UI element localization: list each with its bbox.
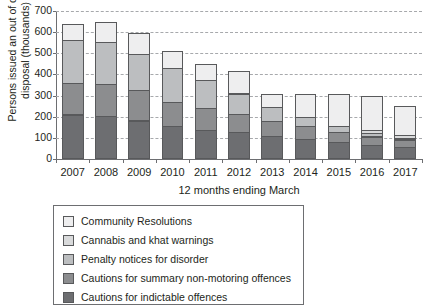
- x-tick-label: 2011: [189, 166, 222, 178]
- x-tick-mark: [189, 159, 190, 163]
- y-tick-label: 500: [8, 47, 52, 58]
- bar-segment: [228, 132, 250, 159]
- bar-segment: [128, 90, 150, 121]
- x-tick-mark: [56, 159, 57, 163]
- bar-segment: [62, 24, 84, 41]
- bar-segment: [328, 142, 350, 159]
- bar-segment: [95, 84, 117, 117]
- y-tick-label: 300: [8, 90, 52, 101]
- bar-segment: [261, 121, 283, 137]
- legend-item[interactable]: Community Resolutions: [63, 214, 192, 228]
- y-tick-label: 200: [8, 111, 52, 122]
- bar-group: [195, 65, 217, 159]
- bar-group: [328, 95, 350, 159]
- x-tick-mark: [322, 159, 323, 163]
- legend-item[interactable]: Cautions for indictable offences: [63, 290, 227, 304]
- x-axis-title: 12 months ending March: [56, 184, 422, 196]
- x-tick-mark: [422, 159, 423, 163]
- bar-group: [261, 95, 283, 159]
- bar-segment: [195, 80, 217, 109]
- bar-group: [62, 25, 84, 159]
- bar-segment: [295, 94, 317, 118]
- bar-group: [162, 51, 184, 159]
- bar-group: [295, 95, 317, 159]
- bar-segment: [95, 116, 117, 159]
- legend-label: Community Resolutions: [81, 216, 192, 227]
- bar-segment: [128, 54, 150, 91]
- bar-segment: [228, 94, 250, 115]
- x-tick-mark: [289, 159, 290, 163]
- bar-segment: [128, 121, 150, 159]
- legend-swatch-icon: [63, 292, 74, 303]
- bar-segment: [394, 147, 416, 159]
- x-tick-label: 2012: [222, 166, 255, 178]
- y-tick-label: 700: [8, 5, 52, 16]
- plot-area: [56, 11, 422, 159]
- x-tick-label: 2014: [289, 166, 322, 178]
- bar-segment: [228, 114, 250, 133]
- bar-segment: [95, 22, 117, 43]
- legend-label: Penalty notices for disorder: [81, 254, 208, 265]
- legend-label: Cautions for summary non-motoring offenc…: [81, 273, 291, 284]
- legend: Community ResolutionsCannabis and khat w…: [53, 205, 304, 305]
- bar-segment: [328, 94, 350, 127]
- x-tick-mark: [89, 159, 90, 163]
- bar-segment: [162, 51, 184, 69]
- bar-group: [394, 107, 416, 159]
- x-tick-label: 2009: [123, 166, 156, 178]
- x-tick-mark: [389, 159, 390, 163]
- bar-segment: [228, 71, 250, 94]
- legend-item[interactable]: Cannabis and khat warnings: [63, 233, 214, 247]
- bar-segment: [128, 33, 150, 55]
- bar-segment: [95, 42, 117, 84]
- bar-segment: [261, 94, 283, 108]
- x-tick-label: 2008: [89, 166, 122, 178]
- legend-swatch-icon: [63, 216, 74, 227]
- bar-segment: [162, 68, 184, 102]
- legend-label: Cautions for indictable offences: [81, 292, 227, 303]
- x-axis-line: [56, 159, 422, 160]
- x-tick-label: 2013: [256, 166, 289, 178]
- bar-segment: [361, 96, 383, 131]
- bar-segment: [295, 126, 317, 140]
- legend-item[interactable]: Cautions for summary non-motoring offenc…: [63, 271, 291, 285]
- bar-series-layer: [56, 11, 422, 159]
- x-tick-mark: [256, 159, 257, 163]
- legend-label: Cannabis and khat warnings: [81, 235, 214, 246]
- y-axis-title: Persons issued an out of court disposal …: [6, 0, 31, 127]
- bar-group: [361, 97, 383, 159]
- y-tick-label: 0: [8, 153, 52, 164]
- bar-segment: [195, 108, 217, 131]
- bar-group: [95, 23, 117, 159]
- y-tick-label: 600: [8, 26, 52, 37]
- x-tick-mark: [355, 159, 356, 163]
- x-tick-mark: [123, 159, 124, 163]
- bar-segment: [261, 136, 283, 159]
- bar-segment: [394, 106, 416, 136]
- bar-segment: [295, 139, 317, 159]
- x-tick-label: 2010: [156, 166, 189, 178]
- x-tick-label: 2007: [56, 166, 89, 178]
- legend-swatch-icon: [63, 235, 74, 246]
- x-tick-label: 2016: [355, 166, 388, 178]
- bar-group: [128, 34, 150, 159]
- y-tick-label: 100: [8, 132, 52, 143]
- bar-segment: [162, 126, 184, 159]
- x-tick-mark: [222, 159, 223, 163]
- bar-group: [228, 72, 250, 159]
- legend-item[interactable]: Penalty notices for disorder: [63, 252, 208, 266]
- x-tick-label: 2017: [389, 166, 422, 178]
- bar-segment: [195, 64, 217, 81]
- bar-segment: [195, 130, 217, 159]
- bar-segment: [62, 83, 84, 116]
- legend-swatch-icon: [63, 273, 74, 284]
- bar-segment: [361, 145, 383, 159]
- legend-swatch-icon: [63, 254, 74, 265]
- x-tick-label: 2015: [322, 166, 355, 178]
- bar-segment: [162, 102, 184, 127]
- y-tick-label: 400: [8, 68, 52, 79]
- stacked-bar-chart: Persons issued an out of court disposal …: [0, 0, 427, 308]
- bar-segment: [62, 40, 84, 84]
- x-tick-mark: [156, 159, 157, 163]
- bar-segment: [261, 107, 283, 122]
